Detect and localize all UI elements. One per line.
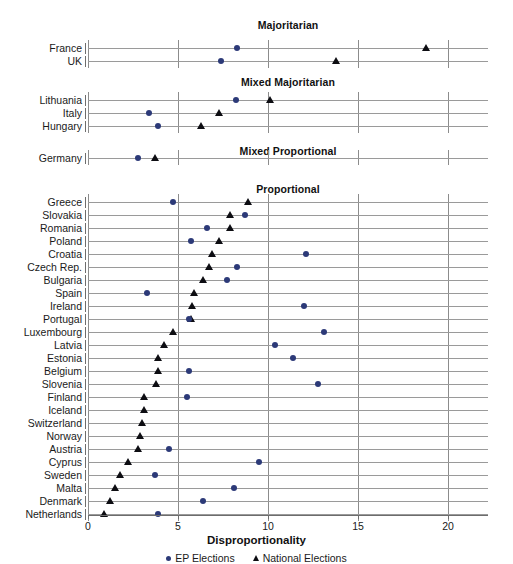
row-baseline [88,384,488,385]
row-axis-tick [85,56,86,67]
table-row: France [0,42,513,55]
marker-national-austria [134,445,142,452]
legend-item-triangle: National Elections [253,551,347,564]
marker-national-italy [215,109,223,116]
marker-national-slovakia [226,211,234,218]
table-row: Austria [0,443,513,456]
row-label-uk: UK [67,55,82,68]
marker-ep-austria [166,446,172,452]
marker-ep-denmark [200,498,206,504]
marker-national-czech-rep- [205,263,213,270]
table-row: UK [0,55,513,68]
row-label-bulgaria: Bulgaria [43,274,82,287]
table-row: Switzerland [0,417,513,430]
marker-ep-lithuania [233,97,239,103]
row-label-portugal: Portugal [43,313,82,326]
row-baseline [88,410,488,411]
table-row: Slovakia [0,209,513,222]
table-row: Greece [0,196,513,209]
row-axis-tick [85,418,86,429]
row-label-greece: Greece [48,196,82,209]
marker-national-poland [215,237,223,244]
row-axis-tick [85,353,86,364]
row-axis-tick [85,314,86,325]
table-row: Belgium [0,365,513,378]
row-axis-tick [85,210,86,221]
row-baseline [88,267,488,268]
marker-ep-italy [146,110,152,116]
legend-circle-icon [166,556,171,561]
marker-national-slovenia [152,380,160,387]
row-baseline [88,462,488,463]
marker-national-bulgaria [199,276,207,283]
row-axis-tick [85,223,86,234]
row-label-sweden: Sweden [44,469,82,482]
table-row: Sweden [0,469,513,482]
x-tick-label-0: 0 [73,520,103,532]
row-label-luxembourg: Luxembourg [24,326,82,339]
row-axis-tick [85,95,86,106]
chart-legend: EP ElectionsNational Elections [0,551,513,564]
x-tick-0 [88,515,89,519]
row-label-malta: Malta [56,482,82,495]
row-label-latvia: Latvia [54,339,82,352]
marker-ep-finland [184,394,190,400]
row-baseline [88,319,488,320]
marker-national-switzerland [138,419,146,426]
marker-ep-hungary [155,123,161,129]
row-label-norway: Norway [46,430,82,443]
row-baseline [88,345,488,346]
row-label-croatia: Croatia [48,248,82,261]
panel-title-proportional: Proportional [88,183,488,195]
legend-label-1: National Elections [263,552,347,564]
marker-national-iceland [140,406,148,413]
marker-national-latvia [160,341,168,348]
marker-national-germany [151,154,159,161]
table-row: Spain [0,287,513,300]
legend-item-circle: EP Elections [166,551,234,564]
marker-ep-luxembourg [321,329,327,335]
row-baseline [88,306,488,307]
x-tick-20 [448,515,449,519]
marker-ep-bulgaria [224,277,230,283]
row-baseline [88,100,488,101]
row-axis-tick [85,197,86,208]
table-row: Denmark [0,495,513,508]
row-label-ireland: Ireland [50,300,82,313]
row-baseline [88,423,488,424]
row-axis-tick [85,366,86,377]
row-axis-tick [85,121,86,132]
marker-national-belgium [154,367,162,374]
row-baseline [88,397,488,398]
marker-national-hungary [197,122,205,129]
x-axis-line [88,515,488,516]
table-row: Czech Rep. [0,261,513,274]
marker-national-greece [244,198,252,205]
row-axis-tick [85,496,86,507]
marker-national-norway [136,432,144,439]
row-baseline [88,158,488,159]
table-row: Slovenia [0,378,513,391]
marker-national-denmark [106,497,114,504]
row-label-slovakia: Slovakia [42,209,82,222]
marker-national-cyprus [124,458,132,465]
table-row: Malta [0,482,513,495]
row-baseline [88,280,488,281]
row-label-spain: Spain [55,287,82,300]
row-axis-tick [85,431,86,442]
marker-national-croatia [208,250,216,257]
x-tick-label-20: 20 [433,520,463,532]
marker-ep-uk [218,58,224,64]
x-tick-label-5: 5 [163,520,193,532]
table-row: Romania [0,222,513,235]
row-baseline [88,126,488,127]
panel-title-mixed-majoritarian: Mixed Majoritarian [88,76,488,88]
row-axis-tick [85,108,86,119]
x-tick-5 [178,515,179,519]
marker-national-uk [332,57,340,64]
row-label-italy: Italy [63,107,82,120]
table-row: Croatia [0,248,513,261]
table-row: Lithuania [0,94,513,107]
row-baseline [88,241,488,242]
